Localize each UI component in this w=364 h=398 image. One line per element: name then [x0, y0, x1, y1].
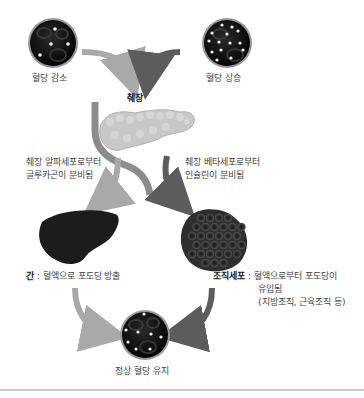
- tissue-line-3: (지방조직, 근육조직 등): [258, 296, 346, 309]
- liver-term: 간: [26, 271, 34, 281]
- pancreas-label: 췌장: [127, 92, 143, 105]
- tissue-cell: [201, 223, 209, 231]
- tissue-cell: [224, 232, 232, 240]
- arrow-high-to-pancreas: [148, 52, 180, 76]
- tissue-cell: [224, 214, 232, 222]
- bottom-divider: [0, 389, 364, 391]
- alpha-cells-line-1: 췌장 알파세포로부터: [26, 156, 101, 169]
- tissue-cell: [206, 232, 214, 240]
- tissue-cells-icon: [181, 209, 247, 271]
- tissue-cell: [201, 241, 209, 249]
- liver-caption: 간 : 혈액으로 포도당 방출: [26, 270, 121, 283]
- tissue-cell: [219, 259, 227, 267]
- tissue-cell: [237, 223, 245, 231]
- tissue-cell: [224, 250, 232, 258]
- alpha-cells-text: 췌장 알파세포로부터 글루카곤이 분비됨: [26, 156, 101, 182]
- normal-glucose-label: 정상 혈당 유지: [115, 365, 169, 378]
- tissue-cell: [188, 232, 196, 240]
- tissue-cell: [188, 250, 196, 258]
- arrow-pancreas-to-tissue: [166, 156, 178, 200]
- tissue-cell: [237, 241, 245, 249]
- tissue-cell: [192, 241, 200, 249]
- tissue-cell: [215, 214, 223, 222]
- high-glucose-label: 혈당 상승: [206, 72, 241, 85]
- alpha-cells-line-2: 글루카곤이 분비됨: [26, 169, 101, 182]
- tissue-cell: [197, 250, 205, 258]
- low-glucose-label: 혈당 감소: [32, 72, 67, 85]
- tissue-cell: [210, 223, 218, 231]
- beta-cells-line-1: 췌장 베타세포로부터: [185, 156, 260, 169]
- tissue-cell: [210, 259, 218, 267]
- liver-separator: :: [34, 271, 43, 281]
- tissue-cell: [219, 223, 227, 231]
- tissue-cell: [228, 223, 236, 231]
- tissue-cell: [233, 250, 241, 258]
- tissue-line-1: 혈액으로부터 포도당이: [254, 271, 337, 281]
- tissue-cell: [215, 232, 223, 240]
- tissue-cell: [233, 232, 241, 240]
- tissue-cell: [197, 232, 205, 240]
- tissue-cell: [228, 241, 236, 249]
- tissue-cell: [192, 223, 200, 231]
- arrow-tissue-to-normal: [182, 288, 212, 333]
- beta-cells-text: 췌장 베타세포로부터 인슐린이 분비됨: [185, 156, 260, 182]
- blood-vessel-high-glucose-icon: [202, 18, 252, 68]
- diagram-canvas: [0, 0, 364, 398]
- arrow-liver-to-normal: [75, 288, 105, 333]
- tissue-cell: [219, 241, 227, 249]
- liver-desc: 혈액으로 포도당 방출: [43, 271, 121, 281]
- tissue-separator: :: [245, 271, 254, 281]
- tissue-cell: [210, 241, 218, 249]
- arrow-pancreas-to-liver: [102, 158, 118, 200]
- pancreas-icon: [95, 102, 194, 195]
- blood-vessel-low-glucose-icon: [28, 18, 78, 68]
- tissue-term: 조직세포: [213, 271, 245, 281]
- tissue-cell: [215, 250, 223, 258]
- tissue-cell: [206, 214, 214, 222]
- tissue-cell: [197, 214, 205, 222]
- beta-cells-line-2: 인슐린이 분비됨: [185, 169, 260, 182]
- arrow-low-to-pancreas: [82, 52, 130, 76]
- tissue-caption: 조직세포 : 혈액으로부터 포도당이: [213, 270, 337, 283]
- blood-vessel-normal-glucose-icon: [120, 310, 170, 360]
- tissue-cell: [201, 259, 209, 267]
- tissue-cell: [206, 250, 214, 258]
- tissue-line-2: 유입됨: [258, 283, 282, 296]
- liver-icon: [39, 210, 119, 264]
